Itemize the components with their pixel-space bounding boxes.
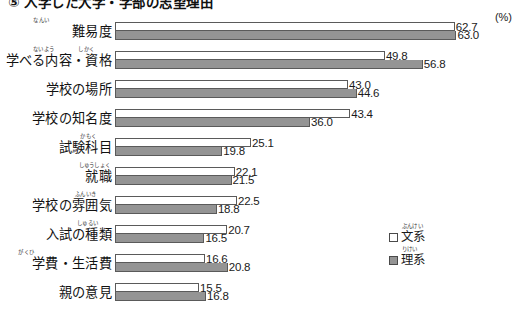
bar-value-label: 20.7: [228, 224, 250, 236]
bar-value-label: 22.5: [238, 195, 260, 207]
bar-value-label: 36.0: [311, 116, 333, 128]
bar-文系: 22.1: [115, 167, 235, 176]
category-label: 学校の知名度: [0, 105, 112, 126]
category-furigana: [0, 76, 112, 83]
bar-value-label: 56.8: [424, 58, 446, 70]
category-name: 学べる内容・資格: [0, 54, 112, 68]
bar-group: 43.436.0: [115, 109, 350, 127]
category-name: 難易度: [0, 25, 112, 39]
legend-furigana: りけい: [402, 247, 418, 252]
category-label: なんい難易度: [0, 18, 112, 39]
bar-文系: 16.6: [115, 254, 205, 263]
bar-group: 62.763.0: [115, 22, 456, 40]
bar-理系: 19.8: [115, 147, 222, 156]
chart-row: ないようしかく学べる内容・資格49.856.8: [0, 49, 518, 78]
category-label: かもく試験科目: [0, 134, 112, 155]
bar-文系: 15.5: [115, 283, 199, 292]
bar-value-label: 44.6: [358, 87, 380, 99]
category-label: 学校の場所: [0, 76, 112, 97]
legend-item-文系[interactable]: ぶんけい文系: [389, 227, 426, 243]
bar-group: 43.044.6: [115, 80, 357, 98]
chart-legend: ぶんけい文系りけい理系: [389, 227, 426, 273]
category-furigana: [0, 105, 112, 112]
bar-理系: 18.8: [115, 205, 217, 214]
bar-chart-plot-area: なんい難易度62.763.0ないようしかく学べる内容・資格49.856.8学校の…: [0, 20, 518, 311]
bar-value-label: 19.8: [223, 145, 245, 157]
bar-理系: 63.0: [115, 31, 456, 40]
chart-row: しゅるい入試の種類20.716.5: [0, 223, 518, 252]
bar-理系: 56.8: [115, 60, 423, 69]
bar-group: 20.716.5: [115, 225, 227, 243]
category-furigana: なんい: [0, 18, 112, 25]
bar-value-label: 16.5: [205, 232, 227, 244]
legend-furigana: ぶんけい: [402, 224, 423, 229]
legend-swatch-icon: [389, 233, 398, 242]
bar-文系: 43.0: [115, 80, 348, 89]
bar-value-label: 21.5: [233, 174, 255, 186]
bar-value-label: 43.4: [351, 108, 373, 120]
chart-row: かもく試験科目25.119.8: [0, 136, 518, 165]
bar-value-label: 18.8: [218, 203, 240, 215]
page-title: ⑤ 入学した大学・学部の志望理由: [8, 0, 213, 11]
category-name: 学費・生活費: [0, 257, 112, 271]
category-label: ふんいき学校の雰囲気: [0, 192, 112, 213]
category-name: 親の意見: [0, 286, 112, 300]
category-furigana: しゅるい: [0, 221, 112, 228]
bar-value-label: 25.1: [252, 137, 274, 149]
bar-value-label: 63.0: [457, 29, 479, 41]
category-name: 学校の雰囲気: [0, 199, 112, 213]
bar-group: 49.856.8: [115, 51, 423, 69]
category-furigana: かもく: [0, 134, 112, 141]
category-label: がくひ学費・生活費: [0, 250, 112, 271]
category-furigana: ないようしかく: [0, 47, 112, 54]
chart-row: 学校の知名度43.436.0: [0, 107, 518, 136]
bar-group: 16.620.8: [115, 254, 228, 272]
category-furigana: [0, 279, 112, 286]
category-name: 就職: [0, 170, 112, 184]
chart-row: なんい難易度62.763.0: [0, 20, 518, 49]
category-label: 親の意見: [0, 279, 112, 300]
category-name: 入試の種類: [0, 228, 112, 242]
legend-label: りけい理系: [401, 254, 426, 266]
category-name: 試験科目: [0, 141, 112, 155]
chart-row: ふんいき学校の雰囲気22.518.8: [0, 194, 518, 223]
bar-文系: 62.7: [115, 22, 455, 31]
chart-row: がくひ学費・生活費16.620.8: [0, 252, 518, 281]
legend-item-理系[interactable]: りけい理系: [389, 250, 426, 266]
bar-group: 15.516.8: [115, 283, 206, 301]
bar-group: 22.121.5: [115, 167, 235, 185]
bar-文系: 49.8: [115, 51, 385, 60]
category-label: しゅうしょく就職: [0, 163, 112, 184]
bar-理系: 20.8: [115, 263, 228, 272]
category-label: ないようしかく学べる内容・資格: [0, 47, 112, 68]
category-name: 学校の知名度: [0, 112, 112, 126]
category-furigana: ふんいき: [0, 192, 112, 199]
category-name: 学校の場所: [0, 83, 112, 97]
category-furigana: がくひ: [0, 250, 112, 257]
bar-value-label: 20.8: [229, 261, 251, 273]
legend-swatch-icon: [389, 256, 398, 265]
bar-理系: 21.5: [115, 176, 232, 185]
bar-理系: 36.0: [115, 118, 310, 127]
chart-row: 学校の場所43.044.6: [0, 78, 518, 107]
chart-row: しゅうしょく就職22.121.5: [0, 165, 518, 194]
chart-row: 親の意見15.516.8: [0, 281, 518, 310]
legend-label: ぶんけい文系: [401, 231, 426, 243]
category-furigana: しゅうしょく: [0, 163, 112, 170]
bar-group: 25.119.8: [115, 138, 251, 156]
bar-理系: 44.6: [115, 89, 357, 98]
bar-value-label: 16.8: [207, 290, 229, 302]
bar-group: 22.518.8: [115, 196, 237, 214]
bar-理系: 16.8: [115, 292, 206, 301]
bar-理系: 16.5: [115, 234, 204, 243]
category-label: しゅるい入試の種類: [0, 221, 112, 242]
